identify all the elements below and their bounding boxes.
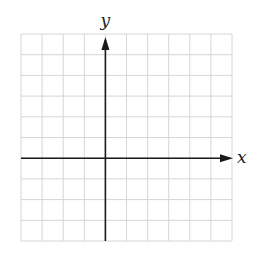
x-axis-label: x	[237, 147, 247, 167]
y-axis-label: y	[99, 10, 110, 30]
x-axis-arrow-icon	[220, 154, 233, 162]
grid-lines	[21, 34, 232, 241]
y-axis-arrow-icon	[101, 37, 109, 50]
y-axis	[101, 37, 109, 241]
coordinate-plane: x y	[0, 0, 257, 254]
